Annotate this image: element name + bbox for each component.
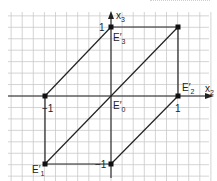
point-p xyxy=(176,25,181,30)
tick-v-pos: 1 xyxy=(99,22,105,33)
label-e3: E′3 xyxy=(113,32,126,45)
tick-h-neg: −1 xyxy=(42,103,54,114)
x3-axis-arrow-icon xyxy=(108,11,114,19)
tick-v-neg: −1 xyxy=(95,159,107,170)
tick-h-pos: 1 xyxy=(175,103,181,114)
x3-axis-label: x3 xyxy=(116,10,125,23)
point-e2 xyxy=(176,94,181,99)
label-e2: E′2 xyxy=(182,82,195,95)
label-e0: E′0 xyxy=(113,100,126,113)
point-e3 xyxy=(109,25,114,30)
coordinate-diagram: x3 x2 1 −1 1 −1 E′3 E′2 E′0 E′1 xyxy=(0,0,217,181)
point-r xyxy=(109,162,114,167)
point-q xyxy=(43,94,48,99)
point-e1 xyxy=(43,162,48,167)
